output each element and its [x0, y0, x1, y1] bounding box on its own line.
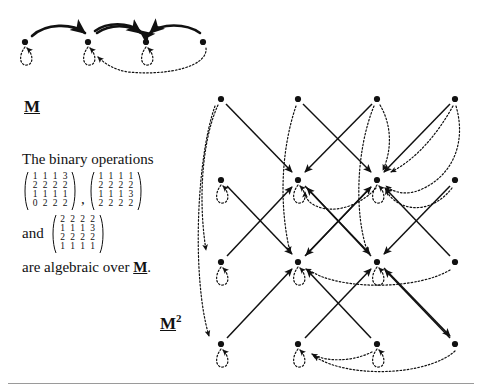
label-M-squared-base: M [160, 314, 176, 333]
selfloop-r2c2 [294, 185, 305, 203]
edge-r3c3-r4c4 [384, 268, 450, 336]
label-M-squared: M2 [160, 312, 182, 334]
selfloop-r4c1 [217, 349, 228, 367]
edge-r3c1-r2c2 [227, 187, 292, 256]
node-r2c4 [452, 177, 458, 183]
node-r3c2 [295, 259, 301, 265]
selfloop-r2c1 [217, 185, 228, 203]
selfloop-r3c1 [217, 267, 228, 285]
edge-r1c1-r2c2 [226, 104, 292, 172]
edge-dotted-r1c1-r3c1 [202, 105, 218, 250]
edge-r2c4-r3c3 [384, 186, 450, 254]
selfloop-r3c3 [373, 267, 384, 285]
edge-r3c3-r2c2-x [307, 188, 371, 256]
node-r2c3 [374, 177, 380, 183]
selfloop-r3c2 [294, 267, 305, 285]
edge-r4c4-r3c3 [385, 270, 450, 338]
edge-r4c3-r3c2 [307, 270, 371, 338]
edge-dotted-r2c3-r3c2 [305, 188, 376, 209]
edge-dotted-r1c4-r2c2 [391, 106, 453, 172]
edge-dotted-r4c4-r4c2 [314, 351, 455, 372]
edge-dotted-r1c3-r3c3 [359, 106, 374, 253]
node-r1c2 [295, 96, 301, 102]
edge-dotted-r1c2-r3c2 [283, 106, 296, 252]
node-r1c1 [218, 96, 224, 102]
edge-r1c4-r2c3 [384, 104, 450, 172]
selfloop-r4c3 [373, 349, 384, 367]
node-r3c4 [452, 259, 458, 265]
node-r1c4 [452, 96, 458, 102]
square-M2-graph [0, 0, 482, 392]
page-rule [8, 383, 474, 384]
edge-dotted-r3c4-r3c2 [306, 269, 450, 285]
node-r2c2 [295, 177, 301, 183]
node-r4c3 [374, 341, 380, 347]
edge-dotted-r1c3-r2c3 [380, 105, 389, 170]
edge-dotted-r4c3-r4c2 [312, 352, 372, 360]
selfloop-r4c2 [294, 349, 305, 367]
edge-r1c2-r2c3 [303, 104, 371, 172]
edge-dotted-r1c4-r2c3-b [386, 106, 460, 193]
edge-r1c3-r2c2 [305, 104, 372, 172]
figure-page: M The binary operations 1 1 1 3 2 [0, 0, 482, 392]
edge-r2c1-r3c2 [227, 186, 292, 254]
edge-dotted-r1c1-r4c1 [198, 106, 215, 336]
node-r4c1 [218, 341, 224, 347]
label-M-squared-exponent: 2 [176, 312, 182, 324]
node-r2c1 [218, 177, 224, 183]
edge-r4c1-r3c2 [227, 269, 292, 338]
node-r1c3 [374, 96, 380, 102]
edge-r3c4-r2c3 [385, 188, 450, 256]
node-r3c3 [374, 259, 380, 265]
selfloop-r2c3 [373, 185, 384, 203]
selfloop-group [217, 185, 384, 367]
node-r3c1 [218, 259, 224, 265]
node-r4c4 [452, 341, 458, 347]
node-r4c2 [295, 341, 301, 347]
